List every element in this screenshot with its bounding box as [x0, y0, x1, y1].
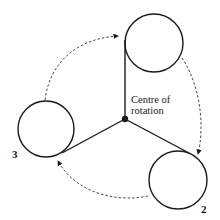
circle-right — [149, 151, 207, 209]
rotation-arc-top-to-right — [182, 58, 201, 154]
centre-label: Centre of rotation — [131, 94, 170, 116]
circle-top — [125, 14, 183, 72]
rotation-diagram: Centre of rotation 3 2 — [0, 0, 220, 220]
circle-label-3: 3 — [12, 149, 18, 160]
rotation-arc-left-to-top — [45, 36, 118, 100]
arm-left — [62, 119, 125, 153]
centre-label-line1: Centre of — [131, 94, 170, 105]
centre-of-rotation-dot — [122, 116, 128, 122]
centre-label-line2: rotation — [131, 105, 170, 116]
arm-right — [125, 119, 189, 153]
diagram-graphics — [0, 0, 220, 220]
circle-label-2: 2 — [201, 204, 207, 215]
rotation-arc-right-to-left — [58, 161, 148, 198]
circle-left — [18, 101, 74, 157]
